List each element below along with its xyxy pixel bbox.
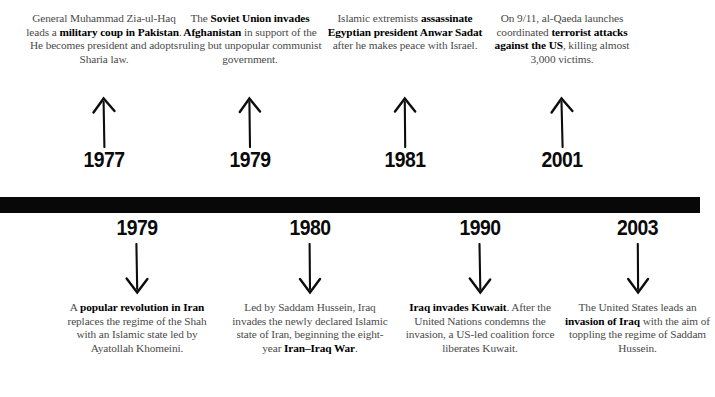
event-year-label: 1980 [240,217,381,239]
up-arrow-icon [24,92,184,148]
event-description: General Muhammad Zia-ul-Haq leads a mili… [24,12,184,92]
timeline-event-below-1979: 1979 A popular revolution in Iran replac… [57,217,217,355]
event-year-label: 2001 [492,149,633,171]
timeline-axis-bar [0,197,700,213]
event-year-label: 1979 [180,149,321,171]
event-description: Iraq invades Kuwait. After the United Na… [395,301,565,355]
event-description: Led by Saddam Hussein, Iraq invades the … [230,301,390,355]
event-year-label: 1990 [405,217,555,239]
event-description: The Soviet Union invades Afghanistan in … [170,12,330,92]
down-arrow-icon [230,243,390,299]
timeline-event-above-2001: On 9/11, al-Qaeda launches coordinated t… [482,12,642,171]
timeline-event-above-1981: Islamic extremists assassinate Egyptian … [325,12,485,171]
down-arrow-icon [57,243,217,299]
event-description: Islamic extremists assassinate Egyptian … [325,12,485,92]
down-arrow-icon [395,243,565,299]
event-description: On 9/11, al-Qaeda launches coordinated t… [482,12,642,92]
up-arrow-icon [170,92,330,148]
event-description: A popular revolution in Iran replaces th… [57,301,217,355]
timeline-event-below-2003: 2003 The United States leads an invasion… [560,217,715,355]
timeline-event-above-1977: General Muhammad Zia-ul-Haq leads a mili… [24,12,184,171]
event-year-label: 1977 [34,149,175,171]
event-year-label: 1979 [67,217,208,239]
timeline-event-above-1979: The Soviet Union invades Afghanistan in … [170,12,330,171]
timeline-event-below-1990: 1990 Iraq invades Kuwait. After the Unit… [395,217,565,355]
event-year-label: 1981 [335,149,476,171]
event-year-label: 2003 [569,217,705,239]
up-arrow-icon [482,92,642,148]
up-arrow-icon [325,92,485,148]
down-arrow-icon [560,243,715,299]
event-description: The United States leads an invasion of I… [560,301,715,355]
timeline-event-below-1980: 1980 Led by Saddam Hussein, Iraq invades… [230,217,390,355]
